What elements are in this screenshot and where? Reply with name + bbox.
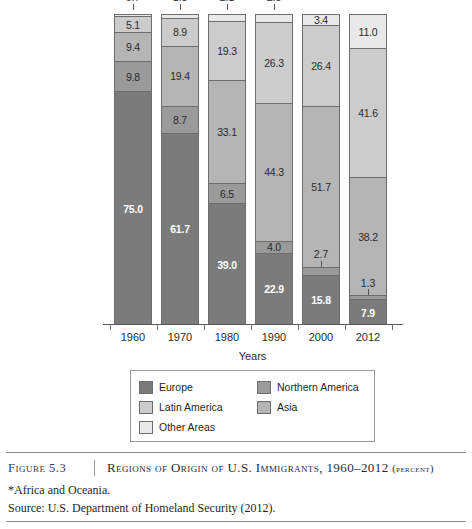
stacked-bar-2000[interactable]: 3.426.451.72.715.8: [302, 14, 340, 324]
legend-label: Europe: [159, 381, 193, 393]
bar-top-label-1980: 2.1: [202, 0, 252, 10]
bar-segment-1960-asia: 9.4: [115, 33, 151, 62]
figure-container: 5.19.49.875.00.78.919.48.761.71.319.333.…: [0, 0, 472, 529]
x-axis-tick: [204, 324, 205, 330]
legend-grid: EuropeNorthern AmericaLatin AmericaAsiaO…: [139, 377, 366, 437]
bar-top-label-1990: 2.5: [249, 0, 299, 10]
bar-segment-1960-latin-america: 5.1: [115, 17, 151, 33]
x-axis-tick: [157, 324, 158, 330]
bar-segment-1990-asia: 44.3: [256, 104, 292, 241]
legend-item-latin-america[interactable]: Latin America: [139, 401, 257, 414]
legend-item-asia[interactable]: Asia: [257, 401, 375, 414]
segment-value-label: 39.0: [209, 259, 245, 270]
bar-top-label-1960: 0.7: [108, 0, 158, 10]
caption-rule-bottom: [6, 521, 466, 522]
bar-segment-2000-other-areas: 3.4: [303, 15, 339, 26]
stacked-bar-2012[interactable]: 11.041.638.21.37.9: [349, 14, 387, 324]
top-label-leader-tick: [227, 4, 228, 10]
bar-segment-2012-europe: 7.9: [350, 300, 386, 324]
legend-label: Asia: [277, 401, 297, 413]
caption-divider: [94, 460, 95, 476]
bar-segment-2012-other-areas: 11.0: [350, 15, 386, 49]
segment-value-label: 9.8: [115, 72, 151, 83]
bar-segment-1980-europe: 39.0: [209, 204, 245, 325]
bar-segment-1990-latin-america: 26.3: [256, 23, 292, 105]
bar-segment-2000-latin-america: 26.4: [303, 26, 339, 108]
callout-leader-tick: [368, 289, 369, 295]
x-axis-title: Years: [110, 350, 395, 362]
segment-value-label: 51.7: [303, 182, 339, 193]
figure-footnote: *Africa and Oceania.: [8, 483, 110, 498]
segment-value-label: 11.0: [350, 26, 386, 37]
bar-segment-1990-europe: 22.9: [256, 254, 292, 325]
segment-callout-label: 1.3: [350, 278, 386, 296]
segment-value-label: 19.4: [162, 71, 198, 82]
legend-item-europe[interactable]: Europe: [139, 381, 257, 394]
x-axis-tick: [298, 324, 299, 330]
segment-value-label: 8.9: [162, 27, 198, 38]
segment-value-label: 26.4: [303, 61, 339, 72]
segment-value-label: 26.3: [256, 58, 292, 69]
bar-segment-2000-europe: 15.8: [303, 276, 339, 325]
stacked-bar-1970[interactable]: 8.919.48.761.7: [161, 14, 199, 324]
bar-segment-1970-europe: 61.7: [162, 134, 198, 325]
bar-segment-2000-asia: 51.7: [303, 107, 339, 267]
segment-value-label: 75.0: [115, 203, 151, 214]
legend-swatch-icon: [139, 381, 153, 394]
figure-source: Source: U.S. Department of Homeland Secu…: [8, 501, 276, 516]
legend-swatch-icon: [257, 381, 271, 394]
bar-segment-1970-northern-america: 8.7: [162, 107, 198, 134]
callout-leader-tick: [321, 261, 322, 267]
caption-rule-top: [6, 452, 466, 453]
segment-value-label: 38.2: [350, 232, 386, 243]
bar-segment-1970-asia: 19.4: [162, 47, 198, 107]
segment-value-label: 41.6: [350, 108, 386, 119]
bar-segment-2000-northern-america: 2.7: [303, 268, 339, 276]
bar-segment-1970-latin-america: 8.9: [162, 19, 198, 47]
segment-value-label: 7.9: [350, 307, 386, 318]
top-label-leader-tick: [274, 4, 275, 10]
bar-segment-2012-latin-america: 41.6: [350, 49, 386, 178]
bar-top-label-1970: 1.3: [155, 0, 205, 10]
segment-value-label: 44.3: [256, 167, 292, 178]
segment-value-label: 61.7: [162, 224, 198, 235]
segment-value-label: 33.1: [209, 127, 245, 138]
legend-item-northern-america[interactable]: Northern America: [257, 381, 375, 394]
segment-value-label: 8.7: [162, 114, 198, 125]
legend-swatch-icon: [139, 401, 153, 414]
figure-title-suffix: (percent): [392, 463, 434, 474]
figure-title-main: Regions of Origin of U.S. Immigrants, 19…: [107, 460, 392, 475]
legend-label: Northern America: [277, 381, 359, 393]
bar-segment-1960-northern-america: 9.8: [115, 62, 151, 92]
stacked-bar-1990[interactable]: 26.344.34.022.9: [255, 14, 293, 324]
x-axis-label-2012: 2012: [338, 331, 398, 343]
bar-segment-1990-northern-america: 4.0: [256, 242, 292, 254]
legend-item-other-areas[interactable]: Other Areas: [139, 421, 257, 434]
segment-value-label: 4.0: [256, 242, 292, 253]
legend-swatch-icon: [257, 401, 271, 414]
figure-number: Figure 5.3: [8, 461, 94, 476]
top-label-leader-tick: [180, 4, 181, 10]
legend-swatch-icon: [139, 421, 153, 434]
stacked-bar-1980[interactable]: 19.333.16.539.0: [208, 14, 246, 324]
caption-row: Figure 5.3 Regions of Origin of U.S. Imm…: [8, 460, 464, 476]
segment-callout-label: 2.7: [303, 249, 339, 267]
segment-value-label: 19.3: [209, 46, 245, 57]
bar-segment-1960-europe: 75.0: [115, 92, 151, 325]
segment-value-label: 22.9: [256, 284, 292, 295]
x-axis-tick: [392, 324, 393, 330]
figure-title: Regions of Origin of U.S. Immigrants, 19…: [107, 460, 434, 476]
bar-segment-1980-northern-america: 6.5: [209, 184, 245, 204]
segment-value-label: 6.5: [209, 188, 245, 199]
x-axis-tick: [345, 324, 346, 330]
bar-segment-1980-asia: 33.1: [209, 81, 245, 184]
segment-value-label: 5.1: [115, 19, 151, 30]
legend-label: Latin America: [159, 401, 223, 413]
top-label-leader-tick: [133, 4, 134, 10]
bar-segment-1980-latin-america: 19.3: [209, 22, 245, 82]
x-axis-tick: [110, 324, 111, 330]
legend-label: Other Areas: [159, 421, 215, 433]
chart-legend: EuropeNorthern AmericaLatin AmericaAsiaO…: [130, 370, 375, 442]
stacked-bar-1960[interactable]: 5.19.49.875.0: [114, 14, 152, 324]
segment-value-label: 15.8: [303, 295, 339, 306]
